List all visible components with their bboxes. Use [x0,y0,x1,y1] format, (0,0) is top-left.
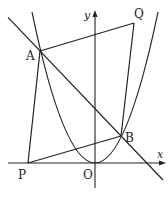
x-axis-arrow-icon [159,161,166,166]
line-ab [8,17,163,180]
point-p-label: P [18,168,26,182]
point-a-label: A [25,49,35,63]
x-axis-label: x [157,148,164,161]
origin-label: O [83,168,93,182]
segment-pa [28,51,40,163]
segment-qb [121,23,134,136]
segment-aq [40,23,134,51]
y-axis-label: y [83,9,91,22]
segment-bp [28,136,121,163]
y-axis [93,10,98,188]
y-axis-arrow-icon [93,10,98,17]
point-b-label: B [125,131,134,145]
x-axis [8,161,166,166]
diagram-canvas: A B Q P O x y [0,0,168,198]
point-q-label: Q [134,7,144,21]
